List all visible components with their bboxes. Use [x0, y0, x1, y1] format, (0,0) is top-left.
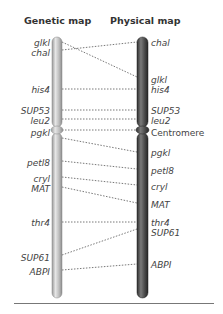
physical-gene-label: MAT — [151, 200, 170, 210]
link-SUP61 — [62, 229, 137, 255]
link-MAT — [62, 187, 137, 203]
physical-centromere-icon — [136, 126, 149, 134]
physical-gene-label: thr4 — [151, 218, 170, 228]
physical-gene-label: ABPI — [151, 260, 171, 270]
genetic-gene-label: thr4 — [31, 218, 50, 228]
genetic-gene-label: leu2 — [31, 116, 50, 126]
link-lines — [62, 42, 137, 270]
physical-gene-label: SUP53 — [151, 106, 180, 116]
bottom-rule — [14, 303, 214, 304]
physical-gene-label: cryl — [151, 182, 167, 192]
genetic-gene-label: ABPI — [30, 267, 50, 277]
physical-gene-label: Centromere — [151, 128, 204, 138]
physical-gene-label: glkl — [151, 75, 167, 85]
genetic-gene-label: cryl — [34, 174, 50, 184]
physical-chromosome — [136, 37, 149, 298]
physical-gene-label: his4 — [151, 85, 170, 95]
physical-gene-label: leu2 — [151, 116, 170, 126]
genetic-gene-label: petl8 — [27, 158, 50, 168]
link-chal — [62, 42, 137, 50]
genetic-gene-label: SUP53 — [21, 106, 50, 116]
link-cryl — [62, 177, 137, 185]
genetic-centromere-icon — [51, 126, 63, 134]
physical-gene-label: petl8 — [151, 166, 174, 176]
genetic-gene-label: SUP61 — [21, 253, 50, 263]
genetic-gene-label: chal — [31, 48, 50, 58]
physical-gene-label: chal — [151, 38, 170, 48]
link-petl8 — [62, 161, 137, 169]
genetic-gene-label: his4 — [31, 85, 50, 95]
link-pgkl — [62, 138, 137, 152]
genetic-chromosome — [51, 37, 63, 298]
physical-gene-label: pgkl — [151, 148, 170, 158]
genetic-gene-label: MAT — [31, 184, 50, 194]
link-glkl — [62, 42, 137, 77]
link-ABPI — [62, 264, 137, 270]
physical-gene-label: SUP61 — [151, 228, 180, 238]
genetic-gene-label: glkl — [34, 38, 50, 48]
genetic-gene-label: pgkl — [31, 128, 50, 138]
